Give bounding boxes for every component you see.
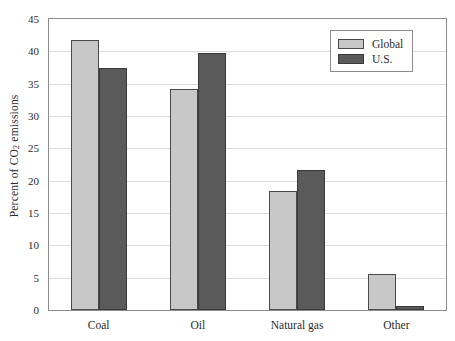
- x-axis-tick-label: Coal: [88, 319, 110, 331]
- bar: [269, 191, 297, 310]
- bar: [198, 53, 226, 310]
- bar: [71, 40, 99, 310]
- y-axis-tick-label: 10: [28, 239, 39, 251]
- x-axis-tick-label: Oil: [191, 319, 206, 331]
- bar-chart-figure: Percent of CO2 emissions 051015202530354…: [0, 0, 455, 341]
- y-axis-tick-label: 30: [28, 110, 39, 122]
- y-axis-tick-label: 25: [28, 142, 39, 154]
- y-axis-tick-label: 45: [28, 13, 39, 25]
- y-axis-tick-label: 0: [34, 304, 40, 316]
- legend-item: U.S.: [338, 51, 403, 66]
- legend-swatch: [338, 54, 364, 64]
- legend: GlobalU.S.: [330, 30, 413, 72]
- legend-swatch: [338, 39, 364, 49]
- x-axis-tick-labels: CoalOilNatural gasOther: [48, 313, 447, 341]
- bar: [170, 89, 198, 310]
- y-axis-tick-labels: 051015202530354045: [0, 18, 44, 311]
- x-axis-tick-label: Other: [383, 319, 409, 331]
- bar-group: [269, 19, 325, 310]
- x-axis-tick-label: Natural gas: [271, 319, 324, 331]
- bar: [99, 68, 127, 310]
- bar: [396, 306, 424, 311]
- legend-item: Global: [338, 36, 403, 51]
- bar-group: [170, 19, 226, 310]
- y-axis-tick-label: 35: [28, 78, 39, 90]
- y-axis-tick-label: 40: [28, 45, 39, 57]
- y-axis-tick-label: 20: [28, 175, 39, 187]
- bar: [368, 274, 396, 310]
- bar-group: [71, 19, 127, 310]
- legend-label: U.S.: [372, 53, 392, 65]
- y-axis-tick-label: 5: [34, 272, 40, 284]
- y-axis-tick-label: 15: [28, 207, 39, 219]
- legend-label: Global: [372, 38, 403, 50]
- bar: [297, 170, 325, 310]
